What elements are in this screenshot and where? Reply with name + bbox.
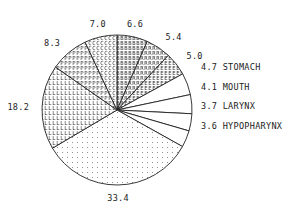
slice-label: 5.0 bbox=[187, 51, 203, 61]
slice-label: 6.6 bbox=[127, 19, 143, 29]
slice-label: 7.0 bbox=[90, 19, 106, 29]
slice-label: 4.7 STOMACH bbox=[201, 62, 261, 72]
slice-label: 18.2 bbox=[7, 102, 29, 112]
slice-label: 3.7 LARYNX bbox=[201, 101, 256, 111]
slice-label: 3.6 HYPOPHARYNX bbox=[201, 121, 283, 131]
slice-label: 8.3 bbox=[44, 38, 60, 48]
pie-chart: BRELPC 6.65.45.04.7 STOMACH4.1 MOUTH3.7 … bbox=[0, 0, 295, 215]
pie-slices bbox=[42, 35, 192, 185]
slice-label: 33.4 bbox=[107, 193, 129, 203]
slice-label: 4.1 MOUTH bbox=[201, 82, 250, 92]
slice-label: 5.4 bbox=[166, 32, 182, 42]
